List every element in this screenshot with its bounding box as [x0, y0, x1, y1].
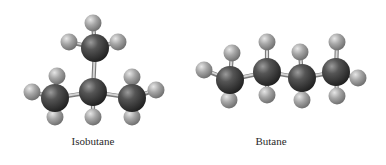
- carbon-atom: [118, 84, 146, 112]
- hydrogen-atom: [148, 82, 165, 99]
- hydrogen-atom: [61, 34, 78, 51]
- butane-label: Butane: [255, 135, 286, 147]
- hydrogen-atom: [124, 69, 141, 86]
- hydrogen-atom: [49, 68, 66, 85]
- isobutane-label: Isobutane: [72, 135, 115, 147]
- hydrogen-atom: [350, 70, 367, 87]
- hydrogen-atom: [110, 34, 127, 51]
- hydrogen-atom: [196, 62, 213, 79]
- hydrogen-atom: [329, 88, 346, 105]
- hydrogen-atom: [292, 44, 309, 61]
- carbon-atom: [288, 64, 316, 92]
- carbon-atom: [79, 78, 107, 106]
- carbon-atom: [41, 84, 69, 112]
- molecule-diagram: [0, 0, 386, 165]
- hydrogen-atom: [224, 45, 241, 62]
- butane-model: [196, 34, 367, 109]
- hydrogen-atom: [259, 34, 276, 51]
- carbon-atom: [253, 58, 281, 86]
- carbon-atom: [216, 66, 244, 94]
- hydrogen-atom: [329, 34, 346, 51]
- hydrogen-atom: [24, 84, 41, 101]
- hydrogen-atom: [259, 87, 276, 104]
- hydrogen-atom: [85, 15, 102, 32]
- hydrogen-atom: [85, 109, 102, 126]
- carbon-atom: [322, 58, 350, 86]
- hydrogen-atom: [221, 92, 238, 109]
- hydrogen-atom: [294, 92, 311, 109]
- isobutane-model: [24, 15, 165, 126]
- carbon-atom: [81, 34, 109, 62]
